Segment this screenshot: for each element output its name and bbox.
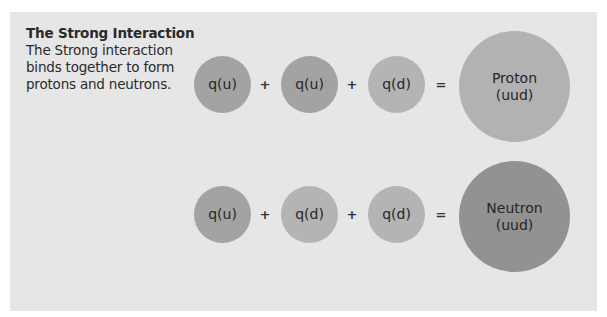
plus-operator: +: [258, 208, 272, 222]
plus-operator: +: [345, 208, 359, 222]
quark-up-circle: q(u): [281, 56, 338, 113]
equals-operator: =: [434, 208, 448, 222]
quark-label: q(u): [295, 76, 324, 93]
plus-operator: +: [345, 78, 359, 92]
hadron-name: Proton: [492, 70, 537, 87]
quark-label: q(d): [295, 206, 324, 223]
diagram-panel: The Strong Interaction The Strong intera…: [10, 12, 597, 311]
hadron-composition: (uud): [496, 217, 534, 234]
quark-label: q(d): [382, 76, 411, 93]
intro-line-3: protons and neutrons.: [26, 76, 196, 93]
quark-up-circle: q(u): [194, 186, 251, 243]
quark-down-circle: q(d): [281, 186, 338, 243]
hadron-composition: (uud): [496, 87, 534, 104]
hadron-name: Neutron: [486, 200, 542, 217]
neutron-circle: Neutron (uud): [459, 161, 570, 272]
intro-line-2: binds together to form: [26, 59, 196, 76]
plus-operator: +: [258, 78, 272, 92]
diagram-title: The Strong Interaction: [26, 25, 196, 42]
equals-operator: =: [434, 78, 448, 92]
intro-text-block: The Strong Interaction The Strong intera…: [26, 25, 196, 93]
quark-label: q(d): [382, 206, 411, 223]
proton-circle: Proton (uud): [459, 31, 570, 142]
quark-down-circle: q(d): [368, 186, 425, 243]
quark-down-circle: q(d): [368, 56, 425, 113]
quark-label: q(u): [208, 206, 237, 223]
intro-line-1: The Strong interaction: [26, 42, 196, 59]
quark-label: q(u): [208, 76, 237, 93]
quark-up-circle: q(u): [194, 56, 251, 113]
